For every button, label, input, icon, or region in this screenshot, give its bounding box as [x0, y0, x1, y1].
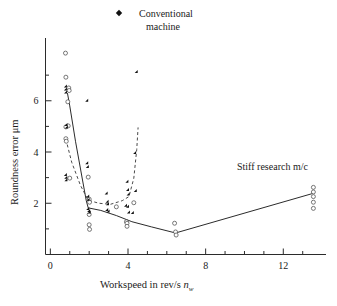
x-axis-title-subscript: w	[189, 285, 194, 293]
data-point-filled-diamond	[131, 211, 134, 214]
data-point-filled-diamond	[125, 180, 128, 183]
data-point-filled-diamond	[85, 161, 88, 164]
roundness-error-chart-figure: Conventional machine Stiff research m/c …	[0, 0, 337, 306]
data-point-filled-diamond	[124, 204, 127, 207]
data-point-open-circle	[88, 227, 92, 231]
data-point-open-circle	[311, 190, 315, 194]
data-point-open-circle	[311, 200, 315, 204]
data-point-open-circle	[311, 206, 315, 210]
y-axis-ticks: 246	[34, 75, 52, 229]
data-point-filled-diamond	[64, 176, 67, 179]
legend: Conventional machine	[116, 8, 193, 32]
data-point-filled-diamond	[126, 188, 129, 191]
x-tick-label: 4	[126, 260, 131, 271]
data-point-filled-diamond	[105, 208, 108, 211]
conventional-trend	[66, 127, 138, 204]
x-tick-label: 12	[278, 260, 288, 271]
y-axis-title: Roundness error μm	[9, 119, 20, 205]
data-point-open-circle	[173, 221, 177, 225]
data-point-open-circle	[88, 200, 92, 204]
data-point-filled-diamond	[106, 200, 109, 203]
data-point-filled-diamond	[64, 84, 67, 87]
x-axis-title: Workspeed in rev/s nw	[100, 279, 194, 293]
legend-marker-filled-diamond	[116, 10, 122, 16]
data-point-filled-diamond	[133, 151, 136, 154]
data-point-open-circle	[66, 100, 70, 104]
data-point-filled-diamond	[85, 99, 88, 102]
series-stiff-research-points	[63, 51, 315, 237]
data-point-open-circle	[64, 75, 68, 79]
svg-text:Workspeed in rev/s nw: Workspeed in rev/s nw	[100, 279, 194, 293]
data-point-open-circle	[125, 224, 129, 228]
data-point-open-circle	[311, 195, 315, 199]
x-tick-label: 8	[203, 260, 208, 271]
data-point-filled-diamond	[86, 165, 89, 168]
data-point-open-circle	[311, 185, 315, 189]
data-point-filled-diamond	[64, 91, 67, 94]
data-point-filled-diamond	[64, 173, 67, 176]
x-tick-label: 0	[48, 260, 53, 271]
data-point-open-circle	[67, 89, 71, 93]
data-point-open-circle	[114, 205, 118, 209]
data-point-filled-diamond	[105, 192, 108, 195]
y-tick-label: 6	[34, 95, 39, 106]
data-point-open-circle	[64, 139, 68, 143]
data-point-open-circle	[87, 223, 91, 227]
data-point-open-circle	[68, 176, 72, 180]
data-point-open-circle	[174, 233, 178, 237]
data-point-filled-diamond	[64, 178, 67, 181]
data-point-filled-diamond	[64, 123, 67, 126]
data-point-filled-diamond	[127, 211, 130, 214]
x-axis-ticks: 04812	[48, 249, 303, 271]
data-point-filled-diamond	[127, 193, 130, 196]
legend-label-line2: machine	[146, 21, 180, 32]
chart-canvas: Conventional machine Stiff research m/c …	[0, 0, 337, 306]
data-point-open-circle	[132, 201, 136, 205]
data-point-open-circle	[86, 175, 90, 179]
stiff-research-label: Stiff research m/c	[237, 161, 308, 172]
legend-label-line1: Conventional	[139, 8, 193, 19]
x-axis-title-main: Workspeed in rev/s	[100, 279, 183, 290]
data-point-filled-diamond	[64, 88, 67, 91]
data-point-open-circle	[63, 51, 67, 55]
data-point-filled-diamond	[134, 189, 137, 192]
series-conventional-points	[64, 70, 138, 214]
y-tick-label: 4	[34, 147, 39, 158]
y-tick-label: 2	[34, 198, 39, 209]
data-point-filled-diamond	[135, 70, 138, 73]
